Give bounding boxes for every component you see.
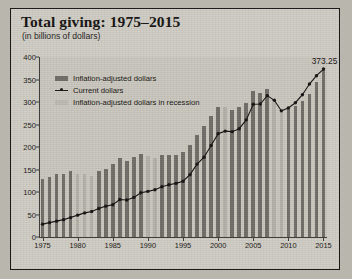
x-axis-tick-mark [218,238,219,241]
line-data-point [188,173,191,176]
y-axis-tick-label: 50 [28,210,36,219]
line-data-point [118,198,121,201]
line-data-point [69,216,72,219]
line-data-point [174,182,177,185]
line-data-point [273,99,276,102]
line-data-point [146,190,149,193]
line-data-point [48,221,51,224]
legend-item-current-dollars: Current dollars [55,85,200,95]
line-data-point [301,93,304,96]
y-axis-tick-mark [36,79,39,80]
line-data-point [83,211,86,214]
y-axis-tick-mark [36,237,39,238]
chart-subtitle: (in billions of dollars) [22,31,100,41]
x-axis-tick-mark [323,238,324,241]
x-axis-tick-label: 1975 [34,241,50,250]
line-data-point [160,185,163,188]
y-axis-tick-label: 400 [23,53,36,62]
x-axis-tick-label: 1985 [105,241,121,250]
line-data-point [62,218,65,221]
y-axis-tick-label: 300 [23,98,36,107]
line-data-point [97,207,100,210]
x-axis-tick-mark [288,238,289,241]
chart-legend: Inflation-adjusted dollars Current dolla… [55,73,200,109]
line-data-point [202,155,205,158]
legend-item-recession: Inflation-adjusted dollars in recession [55,97,200,107]
x-axis-tick-mark [148,238,149,241]
y-axis-tick-label: 150 [23,165,36,174]
x-axis-tick-label: 1980 [69,241,85,250]
legend-label-inflation-adjusted: Inflation-adjusted dollars [73,74,156,83]
line-data-point [132,196,135,199]
y-axis-tick-label: 250 [23,120,36,129]
line-data-point [41,222,44,225]
line-data-point [195,162,198,165]
line-data-point [90,210,93,213]
y-axis-tick-mark [36,124,39,125]
line-data-point [259,102,262,105]
line-data-point [280,109,283,112]
x-axis-tick-label: 2000 [210,241,226,250]
line-data-point [111,203,114,206]
chart-title: Total giving: 1975–2015 [21,13,180,31]
line-data-point [181,180,184,183]
line-data-point [167,183,170,186]
line-data-point [315,74,318,77]
x-axis-tick-label: 1990 [140,241,156,250]
legend-line-point-icon [55,86,68,95]
y-axis-tick-mark [36,147,39,148]
x-axis-tick-mark [113,238,114,241]
y-axis-tick-mark [36,102,39,103]
legend-item-inflation-adjusted: Inflation-adjusted dollars [55,73,200,83]
line-data-point [153,188,156,191]
x-axis-tick-label: 2005 [245,241,261,250]
y-axis-tick-mark [36,192,39,193]
x-axis-tick-label: 2015 [315,241,331,250]
line-data-point [230,130,233,133]
line-data-point [125,198,128,201]
line-data-point [266,94,269,97]
y-axis-tick-label: 100 [23,188,36,197]
x-axis-tick-label: 2010 [280,241,296,250]
line-data-point [209,144,212,147]
y-axis-tick-label: 350 [23,75,36,84]
x-axis-tick-label: 1995 [175,241,191,250]
legend-label-current-dollars: Current dollars [73,86,123,95]
line-data-point [238,127,241,130]
line-data-point [287,106,290,109]
legend-label-recession: Inflation-adjusted dollars in recession [73,98,200,107]
line-data-point [55,219,58,222]
line-data-point [139,191,142,194]
y-axis-tick-mark [36,57,39,58]
legend-swatch-bar-light-icon [55,100,68,105]
x-axis-tick-mark [183,238,184,241]
data-point-annotation: 373.25 [312,56,338,66]
x-axis-tick-mark [78,238,79,241]
line-data-point [252,103,255,106]
line-data-point [223,129,226,132]
line-data-point [76,213,79,216]
line-data-point [322,67,325,70]
x-axis-tick-mark [43,238,44,241]
x-axis-tick-mark [253,238,254,241]
y-axis-tick-label: 200 [23,143,36,152]
y-axis-tick-mark [36,214,39,215]
line-data-point [308,82,311,85]
line-data-point [294,101,297,104]
legend-swatch-bar-dark-icon [55,76,68,81]
line-data-point [104,204,107,207]
chart-figure: Total giving: 1975–2015 (in billions of … [10,8,340,270]
line-data-point [216,132,219,135]
y-axis-tick-mark [36,169,39,170]
line-data-point [245,118,248,121]
